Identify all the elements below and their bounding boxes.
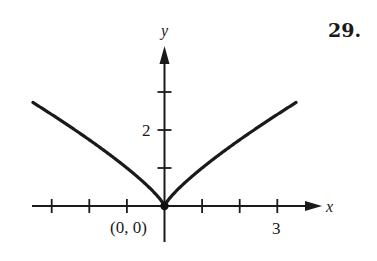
y-axis-arrow-icon	[160, 46, 170, 64]
x-tick-label-3: 3	[272, 219, 281, 238]
x-axis-arrow-icon	[305, 201, 322, 211]
x-axis-label: x	[325, 198, 333, 215]
y-axis-label: y	[159, 22, 169, 40]
problem-number: 29.	[328, 19, 361, 41]
origin-dot	[160, 202, 168, 210]
origin-label: (0, 0)	[110, 218, 147, 237]
figure: 29. y x (0, 0) 3 2	[0, 0, 377, 261]
y-tick-label-2: 2	[142, 121, 151, 140]
plot-area: 29. y x (0, 0) 3 2	[0, 0, 377, 261]
axes	[32, 46, 322, 242]
